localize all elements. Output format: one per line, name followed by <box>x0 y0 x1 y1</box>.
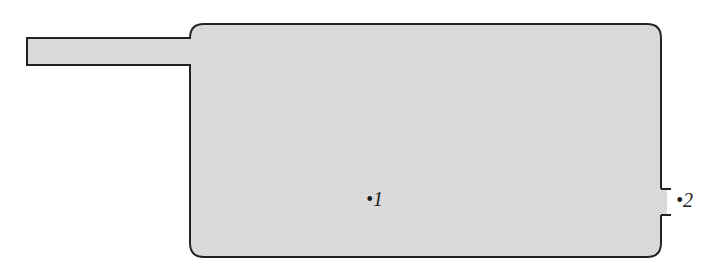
outlet-opening <box>655 189 667 215</box>
point-1-label: •1 <box>366 188 383 210</box>
diagram-canvas: •1 •2 <box>0 0 722 272</box>
point-2-label: •2 <box>676 189 693 211</box>
container-fill <box>27 24 661 257</box>
